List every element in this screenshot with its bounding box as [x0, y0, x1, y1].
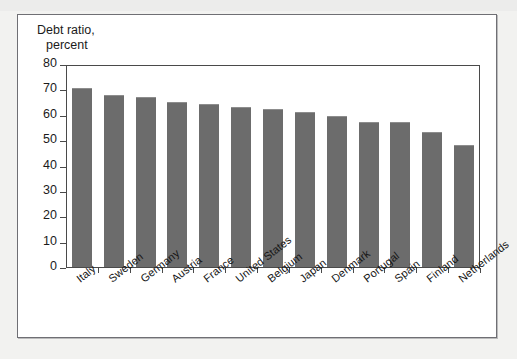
x-tick-label: Italy — [74, 262, 98, 284]
y-tick-label: 60 — [43, 107, 57, 121]
y-tick-label: 10 — [43, 234, 57, 248]
x-tick-label: Finland — [424, 252, 460, 284]
plot-area: 01020304050607080 ItalySwedenGermanyAust… — [66, 65, 480, 268]
y-tick-mark — [60, 268, 66, 269]
y-tick-label: 40 — [43, 158, 57, 172]
y-tick-label: 30 — [43, 183, 57, 197]
y-tick-label: 70 — [43, 81, 57, 95]
x-axis-labels: ItalySwedenGermanyAustriaFranceUnited St… — [66, 65, 480, 268]
x-tick-label: France — [201, 254, 236, 285]
y-tick-label: 80 — [43, 56, 57, 70]
chart-title-line1: Debt ratio, — [37, 23, 95, 37]
x-tick-label: Sweden — [106, 250, 145, 284]
x-tick-mark — [98, 268, 99, 273]
y-tick-label: 0 — [50, 259, 57, 273]
chart-panel: Debt ratio, percent 01020304050607080 It… — [17, 14, 497, 338]
y-tick-label: 20 — [43, 208, 57, 222]
x-tick-label: Netherlands — [456, 238, 511, 285]
chart-title-line2: percent — [37, 38, 95, 53]
screenshot-root: Debt ratio, percent 01020304050607080 It… — [0, 0, 517, 359]
chart-title: Debt ratio, percent — [37, 23, 95, 53]
y-tick-label: 50 — [43, 132, 57, 146]
